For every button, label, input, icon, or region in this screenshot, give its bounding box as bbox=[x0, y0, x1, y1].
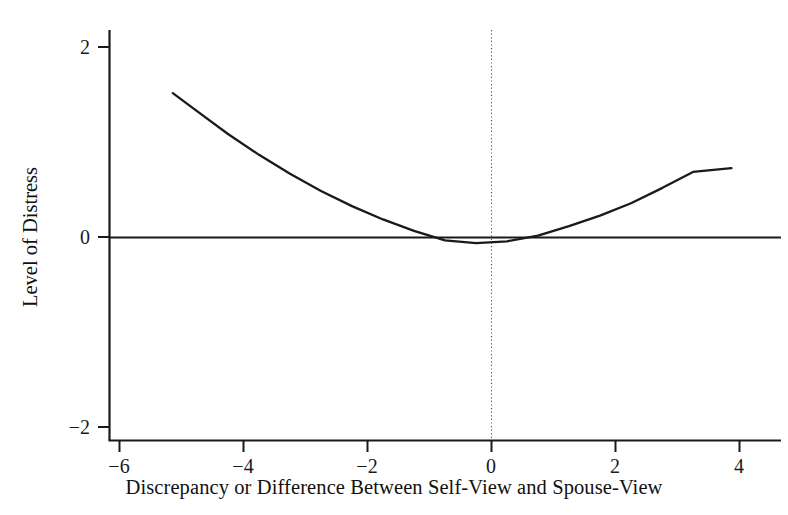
y-tick-label-minus-2: −2 bbox=[69, 417, 90, 437]
x-tick-label-minus-2: −2 bbox=[356, 456, 377, 476]
y-tick-label-0: 0 bbox=[80, 227, 90, 247]
plot-canvas bbox=[0, 0, 788, 515]
x-tick-label-4: 4 bbox=[734, 456, 744, 476]
x-axis-title: Discrepancy or Difference Between Self-V… bbox=[126, 476, 663, 499]
chart-figure: 2 0 −2 −6 −4 −2 0 2 4 Discrepancy or Dif… bbox=[0, 0, 788, 515]
x-tick-label-0: 0 bbox=[486, 456, 496, 476]
distress-curve bbox=[173, 93, 732, 243]
x-tick-label-2: 2 bbox=[610, 456, 620, 476]
y-axis-title: Level of Distress bbox=[19, 167, 42, 307]
x-tick-label-minus-6: −6 bbox=[108, 456, 129, 476]
x-tick-label-minus-4: −4 bbox=[232, 456, 253, 476]
y-tick-label-2: 2 bbox=[80, 37, 90, 57]
